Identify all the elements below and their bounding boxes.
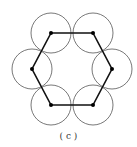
hexagon-circles-diagram [0,0,137,147]
hexagon-outline [32,33,112,105]
vertex-dot [49,31,53,35]
figure-caption: ( c ) [0,131,137,141]
vertex-dot [30,67,34,71]
vertex-dots [30,31,114,107]
vertex-dot [91,31,95,35]
vertex-dot [110,67,114,71]
vertex-dot [49,103,53,107]
vertex-dot [91,103,95,107]
